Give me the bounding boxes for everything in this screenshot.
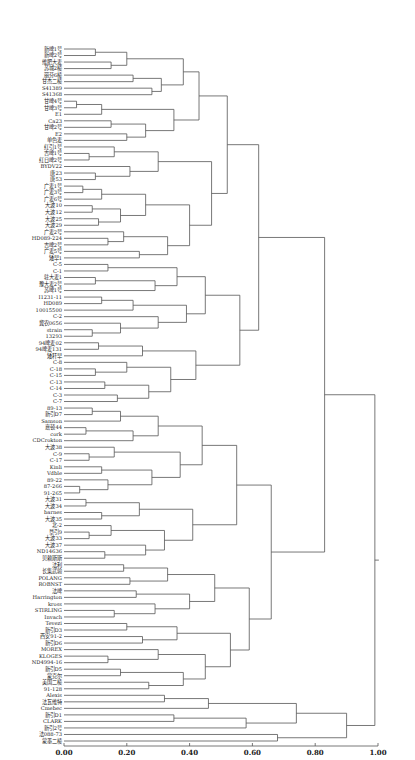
leaf-label: Samson — [41, 418, 62, 424]
leaf-label: 13293 — [45, 333, 62, 339]
leaf-label: 蒙墨二棱 — [42, 737, 63, 745]
x-tick-label: 1.00 — [369, 748, 386, 757]
leaf-label: kross — [48, 601, 62, 607]
leaf-label: Alexis — [45, 692, 62, 698]
x-axis: 0.000.200.400.600.801.00 — [55, 743, 386, 757]
leaf-label: 91-265 — [44, 490, 62, 496]
dendrogram-links — [64, 49, 379, 741]
leaf-label: 89-22 — [47, 477, 62, 483]
leaf-label: 87-266 — [44, 483, 62, 489]
leaf-label: Cmebec — [41, 705, 62, 711]
leaf-label: CDCrokton — [33, 437, 63, 443]
leaf-label: HD089 — [43, 300, 62, 306]
leaf-label: C-8 — [53, 359, 62, 365]
leaf-label: HD089-224 — [32, 235, 63, 241]
leaf-label: Ca23 — [48, 118, 62, 124]
leaf-label: E2 — [55, 131, 62, 137]
leaf-label: 10015500 — [36, 307, 62, 313]
leaf-label: E1 — [55, 111, 62, 117]
leaf-label: Invach — [44, 614, 62, 620]
leaf-label: 89-13 — [47, 405, 62, 411]
x-tick-label: 0.00 — [55, 748, 72, 757]
leaf-label: Tevezi — [45, 620, 62, 626]
x-tick-label: 0.80 — [307, 748, 324, 757]
leaf-label: MOREX — [41, 646, 62, 652]
leaf-label: cork — [50, 431, 63, 437]
leaf-label: barnes — [44, 509, 62, 515]
leaf-label: BYDV22 — [40, 163, 62, 169]
leaf-label: C-17 — [50, 457, 62, 463]
leaf-label: C-14 — [50, 385, 63, 391]
leaf-label: S41368 — [42, 91, 62, 97]
leaf-label: C-2 — [53, 313, 62, 319]
leaf-labels: 新啤1号新啤2号维肥大麦苏城2棱丽芬6棱甘杰二棱S41389S41368甘啤4号… — [32, 45, 63, 745]
leaf-label: ND14636 — [37, 548, 62, 554]
leaf-label: KLOGES — [39, 653, 63, 659]
leaf-label: C-1 — [53, 268, 62, 274]
x-axis-ticks: 0.000.200.400.600.801.00 — [55, 743, 386, 757]
leaf-label: ND4994-16 — [32, 659, 62, 665]
leaf-label: C-13 — [50, 379, 62, 385]
leaf-label: Vdble — [46, 470, 62, 476]
x-tick-label: 0.20 — [118, 748, 135, 757]
leaf-label: C-7 — [53, 398, 62, 404]
x-tick-label: 0.60 — [244, 748, 261, 757]
leaf-label: strain — [47, 327, 63, 333]
leaf-label: I1231-11 — [38, 294, 62, 300]
x-tick-label: 0.40 — [181, 748, 198, 757]
leaf-label: Kinli — [50, 464, 63, 470]
leaf-label: S41389 — [42, 85, 62, 91]
leaf-label: C-9 — [53, 451, 62, 457]
leaf-label: C-18 — [50, 366, 62, 372]
leaf-label: C-15 — [50, 372, 62, 378]
leaf-label: C-5 — [53, 261, 62, 267]
leaf-label: 91-128 — [44, 686, 62, 692]
leaf-label: CLARK — [43, 718, 62, 724]
leaf-label: STIRLING — [35, 607, 62, 613]
leaf-label: C-3 — [53, 392, 62, 398]
leaf-label: ROBNST — [38, 581, 62, 587]
dendrogram-chart: 新啤1号新啤2号维肥大麦苏城2棱丽芬6棱甘杰二棱S41389S41368甘啤4号… — [0, 0, 415, 760]
leaf-label: POLANG — [38, 575, 62, 581]
